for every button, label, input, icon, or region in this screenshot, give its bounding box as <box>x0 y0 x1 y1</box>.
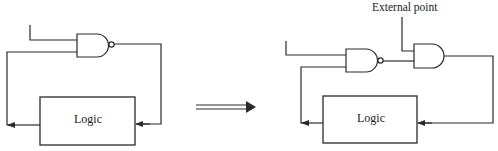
left-logic-label: Logic <box>74 112 102 127</box>
left-nand-gate-icon <box>77 34 109 57</box>
right-nand-gate-icon <box>346 49 378 72</box>
right-and-gate-icon <box>414 44 444 68</box>
right-logic-label: Logic <box>357 111 385 126</box>
left-circuit <box>7 25 161 145</box>
external-point-wire <box>402 17 414 51</box>
right-circuit <box>286 17 493 143</box>
transform-arrow-icon <box>196 101 256 113</box>
left-input-wire-top <box>30 25 77 40</box>
diagram-canvas <box>0 0 498 151</box>
external-point-label: External point <box>372 1 437 13</box>
right-input-wire-top <box>286 41 346 55</box>
left-nand-bubble-icon <box>109 42 114 47</box>
right-nand-bubble-icon <box>378 58 383 63</box>
